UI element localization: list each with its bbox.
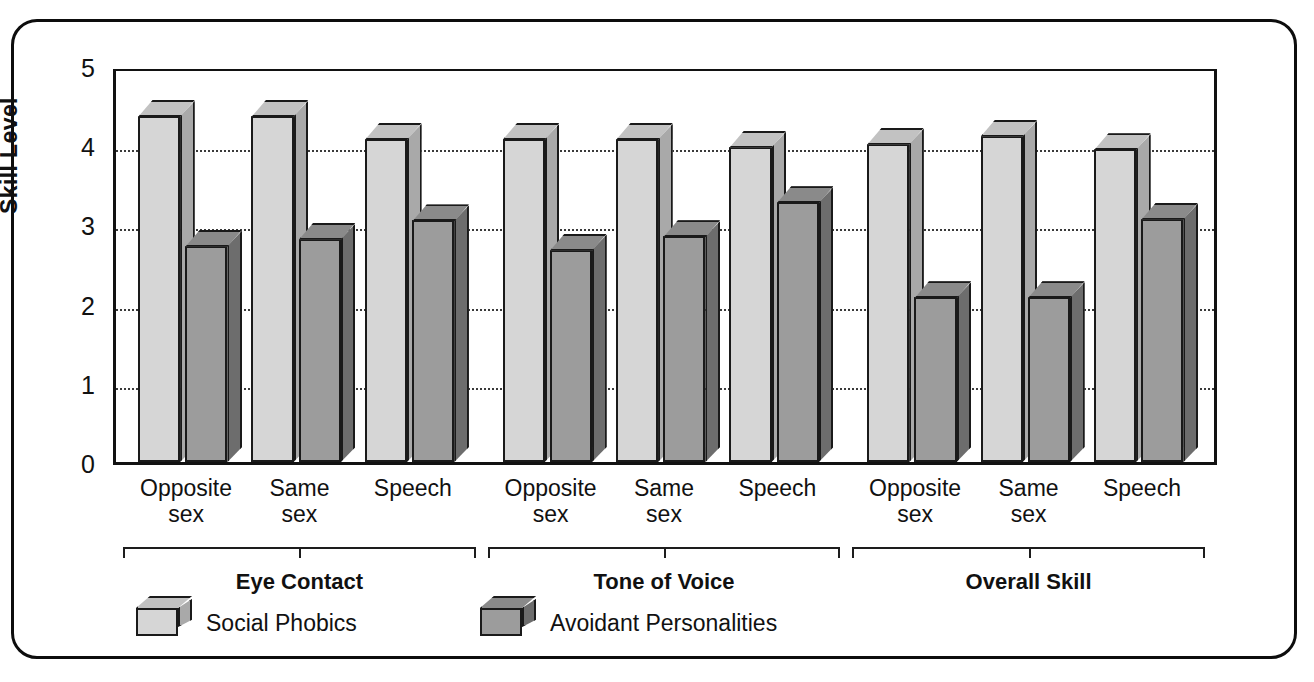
cat-line2: sex <box>646 501 682 527</box>
bar-avoidant-personalities-7 <box>1028 297 1070 462</box>
cube-front-face <box>480 608 522 636</box>
bar-front-face <box>981 136 1023 462</box>
bar-front-face <box>867 144 909 462</box>
x-category-label-8: Speech <box>1052 475 1232 501</box>
cat-line1: Same <box>999 475 1059 501</box>
bracket-center-tick <box>299 547 301 558</box>
cube-front-face <box>136 608 178 636</box>
cat-line1: Speech <box>1103 475 1181 501</box>
bar-front-face <box>1028 297 1070 462</box>
bar-front-face <box>1141 219 1183 462</box>
cat-line2: sex <box>897 501 933 527</box>
bar-avoidant-personalities-3 <box>550 250 592 462</box>
cat-line1: Speech <box>374 475 452 501</box>
group-bracket-2 <box>852 537 1205 559</box>
bar-front-face <box>365 139 407 462</box>
bar-social-phobics-7 <box>981 136 1023 462</box>
cat-line2: sex <box>533 501 569 527</box>
legend-label: Avoidant Personalities <box>550 610 777 637</box>
bracket-left-tick <box>123 547 125 558</box>
y-tick-3: 3 <box>55 214 95 239</box>
cat-line2: sex <box>168 501 204 527</box>
bar-avoidant-personalities-0 <box>185 246 227 462</box>
bracket-center-tick <box>1029 547 1031 558</box>
bar-side-face <box>227 231 242 462</box>
group-label-0: Eye Contact <box>139 569 459 595</box>
legend-swatch-cube-icon <box>136 596 192 636</box>
y-tick-5: 5 <box>55 56 95 81</box>
bracket-right-tick <box>838 547 840 558</box>
legend-label: Social Phobics <box>206 610 357 637</box>
bar-avoidant-personalities-8 <box>1141 219 1183 462</box>
axis-box <box>113 69 1217 465</box>
bracket-left-tick <box>488 547 490 558</box>
bar-front-face <box>299 239 341 462</box>
bar-avoidant-personalities-2 <box>412 220 454 462</box>
cat-line2: sex <box>282 501 318 527</box>
bar-social-phobics-8 <box>1094 149 1136 462</box>
bar-front-face <box>616 139 658 462</box>
bar-front-face <box>251 116 293 462</box>
bar-social-phobics-0 <box>138 116 180 462</box>
bar-avoidant-personalities-4 <box>663 236 705 462</box>
figure-root: Skill Level 543210 OppositesexSamesexSpe… <box>0 0 1314 682</box>
bracket-right-tick <box>1203 547 1205 558</box>
bar-side-face <box>819 187 834 462</box>
bracket-right-tick <box>474 547 476 558</box>
bar-side-face <box>1183 204 1198 462</box>
bar-front-face <box>412 220 454 462</box>
bar-front-face <box>1094 149 1136 462</box>
bar-social-phobics-6 <box>867 144 909 462</box>
bar-side-face <box>705 221 720 462</box>
bar-social-phobics-1 <box>251 116 293 462</box>
group-bracket-0 <box>123 537 476 559</box>
bar-social-phobics-3 <box>503 139 545 462</box>
bar-side-face <box>341 224 356 462</box>
bar-social-phobics-4 <box>616 139 658 462</box>
y-tick-0: 0 <box>55 452 95 477</box>
cat-line1: Speech <box>738 475 816 501</box>
group-label-2: Overall Skill <box>869 569 1189 595</box>
bar-front-face <box>503 139 545 462</box>
bar-front-face <box>663 236 705 462</box>
bracket-center-tick <box>664 547 666 558</box>
y-tick-2: 2 <box>55 294 95 319</box>
cat-line2: sex <box>1011 501 1047 527</box>
bar-front-face <box>729 147 771 462</box>
legend-swatch-cube-icon <box>480 596 536 636</box>
y-axis-label: Skill Level <box>0 97 23 214</box>
bar-front-face <box>914 297 956 462</box>
cat-line1: Same <box>634 475 694 501</box>
bar-side-face <box>454 205 469 462</box>
bar-side-face <box>1070 282 1085 462</box>
bar-front-face <box>185 246 227 462</box>
y-tick-1: 1 <box>55 373 95 398</box>
bar-avoidant-personalities-5 <box>777 202 819 462</box>
bar-side-face <box>592 235 607 462</box>
bar-front-face <box>777 202 819 462</box>
chart-plot-area: Skill Level 543210 OppositesexSamesexSpe… <box>0 0 1314 682</box>
bracket-left-tick <box>852 547 854 558</box>
bar-avoidant-personalities-6 <box>914 297 956 462</box>
bar-side-face <box>957 282 972 462</box>
bar-social-phobics-2 <box>365 139 407 462</box>
group-label-1: Tone of Voice <box>504 569 824 595</box>
bar-front-face <box>138 116 180 462</box>
bar-front-face <box>550 250 592 462</box>
group-bracket-1 <box>488 537 841 559</box>
bar-avoidant-personalities-1 <box>299 239 341 462</box>
bar-social-phobics-5 <box>729 147 771 462</box>
y-tick-4: 4 <box>55 135 95 160</box>
cat-line1: Same <box>269 475 329 501</box>
